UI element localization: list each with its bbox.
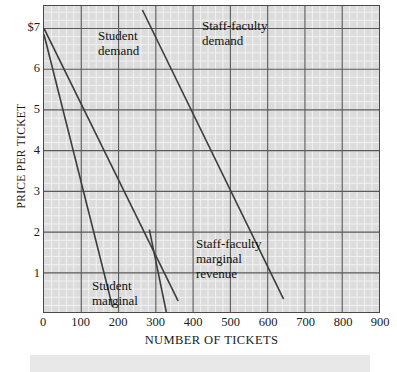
x-axis-title: NUMBER OF TICKETS bbox=[43, 333, 380, 348]
figure-container: Student demand Staff-faculty demand Staf… bbox=[0, 0, 397, 372]
x-tick-900: 900 bbox=[358, 316, 397, 329]
plot-area: Student demand Staff-faculty demand Staf… bbox=[43, 5, 380, 313]
annotation-staff-faculty-marginal-revenue: Staff-faculty marginal revenue bbox=[196, 236, 261, 281]
y-tick-1: 1 bbox=[6, 267, 40, 279]
curve-student-demand bbox=[44, 28, 178, 301]
annotation-staff-faculty-demand: Staff-faculty demand bbox=[202, 18, 267, 48]
y-tick-7: $7 bbox=[6, 21, 40, 33]
curve-student-marginal-revenue bbox=[44, 35, 113, 308]
y-axis-title: PRICE PER TICKET bbox=[15, 81, 27, 231]
annotation-student-marginal-revenue: Student marginal revenue bbox=[92, 278, 138, 313]
annotation-student-demand: Student demand bbox=[98, 28, 139, 58]
x-axis-tick-labels: 0 100 200 300 400 500 600 700 800 900 bbox=[0, 316, 397, 332]
y-tick-6: 6 bbox=[6, 62, 40, 74]
caption-band bbox=[30, 355, 370, 372]
